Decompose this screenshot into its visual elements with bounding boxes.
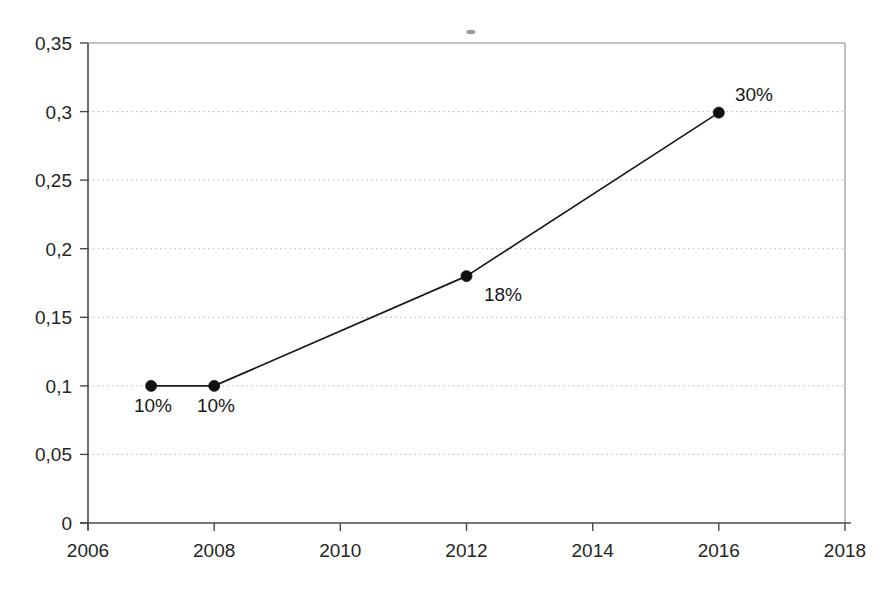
x-tick-label-2006: 2006 [67,540,109,561]
data-point-2017 [713,107,724,118]
y-tick-label-0.3: 0,3 [46,102,72,123]
y-tick-label-0.25: 0,25 [35,170,72,191]
data-point-2013 [461,271,472,282]
data-point-2007 [146,380,157,391]
x-tick-label-2010: 2010 [319,540,361,561]
data-label-2013: 18% [484,284,522,305]
x-tick-label-2012: 2012 [445,540,487,561]
chart-canvas: 0,35 0,3 0,25 0,2 0,15 0,1 0,05 0 2006 2… [0,0,892,592]
data-label-2007: 10% [134,395,172,416]
data-point-2009 [209,380,220,391]
line-chart: 0,35 0,3 0,25 0,2 0,15 0,1 0,05 0 2006 2… [0,0,892,592]
data-label-2017: 30% [735,84,773,105]
y-tick-label-0.1: 0,1 [46,376,72,397]
y-tick-label-0.35: 0,35 [35,33,72,54]
scan-speck-artifact [467,30,476,34]
x-tick-label-2016: 2016 [698,540,740,561]
y-tick-label-0.15: 0,15 [35,307,72,328]
y-tick-label-0: 0 [61,513,72,534]
x-tick-label-2018: 2018 [824,540,866,561]
x-tick-label-2014: 2014 [572,540,615,561]
data-label-2009: 10% [197,395,235,416]
y-tick-label-0.2: 0,2 [46,239,72,260]
y-tick-label-0.05: 0,05 [35,444,72,465]
x-tick-label-2008: 2008 [193,540,235,561]
